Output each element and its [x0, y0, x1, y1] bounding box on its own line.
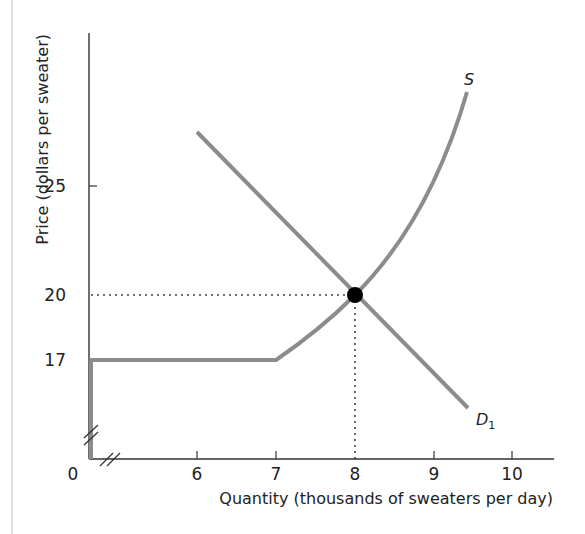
supply-curve [91, 92, 467, 459]
demand-label: D1 [476, 410, 495, 432]
x-label-10: 10 [501, 464, 523, 484]
x-axis-title: Quantity (thousands of sweaters per day) [219, 489, 553, 508]
supply-demand-chart: 25 20 17 0 6 7 8 9 10 Quantity (thousand… [0, 0, 585, 534]
x-label-7: 7 [271, 464, 282, 484]
x-label-9: 9 [429, 464, 440, 484]
y-label-20: 20 [44, 285, 66, 305]
equilibrium-point [347, 287, 363, 303]
demand-label-main: D [476, 410, 488, 429]
y-axis-title: Price (dollars per sweater) [33, 34, 52, 245]
demand-curve [197, 132, 468, 408]
supply-label: S [464, 70, 474, 89]
demand-label-subscript: 1 [488, 419, 495, 432]
y-label-17: 17 [44, 350, 66, 370]
x-label-0: 0 [68, 464, 79, 484]
x-label-6: 6 [192, 464, 203, 484]
x-label-8: 8 [350, 464, 361, 484]
